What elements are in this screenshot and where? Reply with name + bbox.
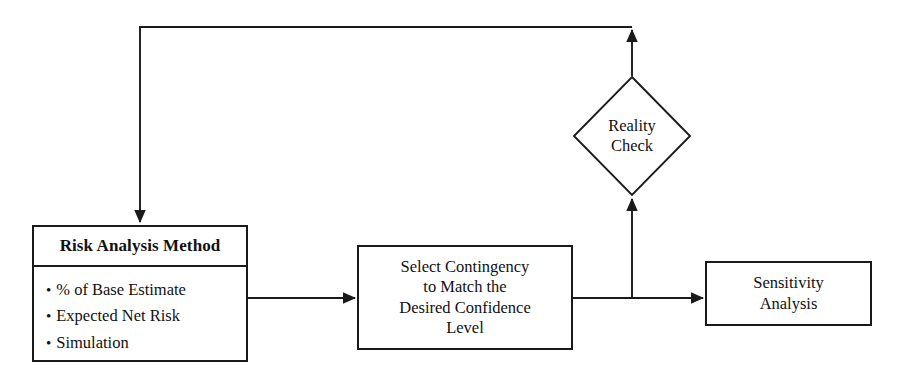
- select-contingency-node[interactable]: Select Contingency to Match the Desired …: [357, 245, 573, 350]
- diagram-canvas: Risk Analysis Method • % of Base Estimat…: [0, 0, 903, 377]
- list-item: • % of Base Estimate: [46, 281, 246, 298]
- text-line: Level: [399, 318, 531, 338]
- edge-reality-check-feedback-to-risk-analysis: [140, 27, 632, 222]
- text-line: Desired Confidence: [399, 298, 531, 318]
- text-line: Sensitivity: [753, 273, 824, 293]
- text-line: to Match the: [399, 277, 531, 297]
- reality-check-node[interactable]: Reality Check: [573, 76, 691, 196]
- select-contingency-label: Select Contingency to Match the Desired …: [399, 257, 531, 338]
- list-item-label: Expected Net Risk: [56, 307, 180, 324]
- text-line: Analysis: [753, 294, 824, 314]
- list-item: • Expected Net Risk: [46, 307, 246, 324]
- risk-analysis-method-title: Risk Analysis Method: [34, 227, 246, 267]
- text-line: Check: [611, 136, 653, 156]
- sensitivity-analysis-node[interactable]: Sensitivity Analysis: [705, 261, 872, 326]
- list-item: • Simulation: [46, 334, 246, 351]
- bullet-icon: •: [46, 283, 51, 298]
- reality-check-label: Reality Check: [573, 76, 691, 196]
- risk-analysis-method-node[interactable]: Risk Analysis Method • % of Base Estimat…: [32, 225, 248, 362]
- risk-analysis-method-bullet-list: • % of Base Estimate • Expected Net Risk…: [34, 267, 246, 360]
- list-item-label: Simulation: [56, 334, 128, 351]
- text-line: Select Contingency: [399, 257, 531, 277]
- bullet-icon: •: [46, 309, 51, 324]
- text-line: Reality: [608, 116, 656, 136]
- sensitivity-analysis-label: Sensitivity Analysis: [753, 273, 824, 314]
- bullet-icon: •: [46, 336, 51, 351]
- list-item-label: % of Base Estimate: [56, 281, 186, 298]
